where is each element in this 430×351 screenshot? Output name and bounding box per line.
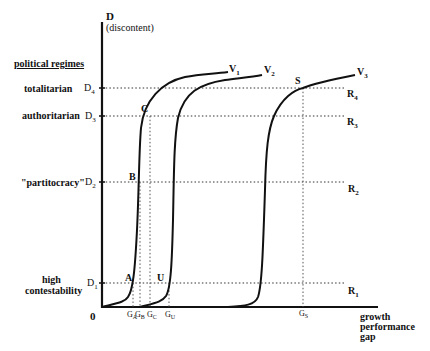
discontent-regime-diagram: D (discontent) 0 growth performance gap … <box>0 0 430 351</box>
point-s: S <box>295 75 301 86</box>
curve-v1 <box>102 72 228 307</box>
gc-label: GC <box>147 310 157 320</box>
point-u: U <box>157 272 164 283</box>
gu-label: GU <box>165 310 176 320</box>
d4-label: D4 <box>84 82 95 96</box>
d1-label: D1 <box>87 277 98 291</box>
regime-authoritarian: authoritarian <box>22 110 80 121</box>
r1-label: R1 <box>348 285 359 299</box>
regimes-heading: political regimes <box>14 58 84 69</box>
y-axis-sublabel: (discontent) <box>106 22 154 34</box>
regime-high: high <box>42 274 61 285</box>
x-tick-labels: GA GB GC GU GS <box>127 309 308 320</box>
r-labels: R4 R3 R2 R1 <box>347 88 359 299</box>
d3-label: D3 <box>85 110 96 124</box>
v2-label: V2 <box>264 64 275 78</box>
regime-contestability: contestability <box>25 285 82 296</box>
r4-label: R4 <box>347 88 358 102</box>
regime-totalitarian: totalitarian <box>24 83 73 94</box>
regime-partitocracy: "partitocracy" <box>21 177 85 188</box>
r3-label: R3 <box>347 116 358 130</box>
r2-label: R2 <box>348 183 359 197</box>
point-b: B <box>129 171 136 182</box>
point-a: A <box>125 272 133 283</box>
v1-label: V1 <box>229 63 240 77</box>
y-axis-label: D <box>106 10 114 22</box>
point-c: C <box>141 103 148 114</box>
gb-label: GB <box>135 310 145 320</box>
origin-label: 0 <box>90 310 96 322</box>
x-axis-label-3: gap <box>360 331 376 342</box>
d2-label: D2 <box>85 176 96 190</box>
curve-v3 <box>228 75 355 307</box>
gs-label: GS <box>299 309 308 319</box>
d-labels: D4 D3 D2 D1 <box>84 82 98 291</box>
v3-label: V3 <box>357 66 368 80</box>
